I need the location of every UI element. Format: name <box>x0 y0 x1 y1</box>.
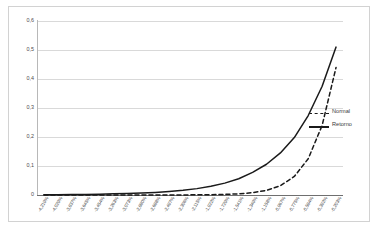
x-axis-tick-label: -0,775% <box>288 196 301 213</box>
x-axis-tick-labels: -4,219%-4,029%-3,837%-3,645%-3,454%-3,26… <box>37 196 343 230</box>
legend-item-retorno: Retorno <box>309 121 379 134</box>
dashed-line-swatch-icon <box>309 113 329 114</box>
x-axis-tick-label: -3,073% <box>121 196 134 213</box>
x-axis-tick-label: -3,454% <box>93 196 106 213</box>
y-axis-tick-label: 0,4 <box>27 76 35 81</box>
y-axis-tick-labels: 0,60,50,40,30,20,10 <box>9 7 34 230</box>
x-axis-tick-label: -0,967% <box>274 196 287 213</box>
x-axis-tick-label: -2,688% <box>149 196 162 213</box>
x-axis-tick-label: -4,029% <box>51 196 64 213</box>
chart-legend: Normal Retorno <box>309 108 379 136</box>
x-axis-tick-label: -1,541% <box>232 196 245 213</box>
y-axis-tick-label: 0,3 <box>27 105 35 110</box>
y-axis-tick-label: 0 <box>31 192 34 197</box>
x-axis-tick-label: -0,392% <box>315 196 328 213</box>
x-axis-tick-label: -0,203% <box>329 196 342 213</box>
chart-frame: 0,60,50,40,30,20,10 -4,219%-4,029%-3,837… <box>8 6 370 222</box>
x-axis-tick-label: -3,645% <box>79 196 92 213</box>
x-axis-tick-label: -2,497% <box>162 196 175 213</box>
y-axis-tick-label: 0,5 <box>27 47 35 52</box>
x-axis-tick-label: -0,584% <box>302 196 315 213</box>
series-container <box>37 21 343 196</box>
y-axis-tick-label: 0,1 <box>27 163 35 168</box>
legend-label-normal: Normal <box>332 109 350 115</box>
x-axis-tick-label: -3,837% <box>65 196 78 213</box>
x-axis-tick-label: -1,729% <box>218 196 231 213</box>
x-axis-tick-label: -2,115% <box>190 196 202 212</box>
x-axis-tick-label: -4,219% <box>37 196 50 213</box>
x-axis-tick-label: -3,263% <box>107 196 120 213</box>
line-chart-svg <box>37 21 343 196</box>
x-axis-tick-label: -1,922% <box>204 196 217 213</box>
x-axis-tick-label: -2,306% <box>176 196 189 213</box>
x-axis-tick-label: -1,349% <box>246 196 259 213</box>
solid-line-swatch-icon <box>309 126 329 128</box>
y-axis-tick-label: 0,6 <box>27 18 35 23</box>
y-axis-tick-label: 0,2 <box>27 134 35 139</box>
series-line-normal <box>44 67 336 195</box>
legend-item-normal: Normal <box>309 108 379 121</box>
legend-label-retorno: Retorno <box>332 122 352 128</box>
x-axis-tick-label: -2,880% <box>135 196 148 213</box>
x-axis-tick-label: -1,158% <box>260 196 273 213</box>
series-line-retorno <box>44 47 336 195</box>
chart-screenshot: 0,60,50,40,30,20,10 -4,219%-4,029%-3,837… <box>0 0 379 230</box>
